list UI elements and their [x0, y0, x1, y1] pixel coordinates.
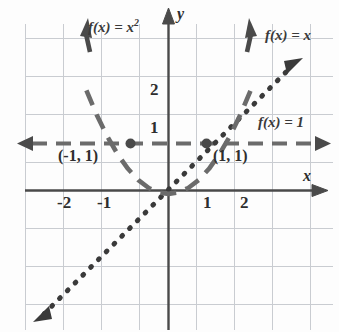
identity-upper-arrowhead — [284, 58, 303, 74]
parabola-exponent: 2 — [134, 17, 139, 28]
parabola-function-label: f(x) = x2 — [88, 18, 139, 35]
parabola-function-label-text: f(x) = x — [88, 19, 134, 35]
point-label-minus-one-one: (-1, 1) — [58, 148, 98, 164]
axis-lines — [25, 8, 328, 330]
x-tick-minus-2: -2 — [57, 194, 71, 211]
x-axis-arrowhead — [312, 185, 328, 197]
y-axis-label: y — [177, 6, 184, 22]
point-label-one-one: (1, 1) — [213, 148, 248, 164]
y-tick-2: 2 — [150, 81, 159, 98]
identity-function-label: f(x) = x — [265, 28, 311, 43]
point-dot-one-one — [202, 139, 212, 149]
x-tick-2: 2 — [240, 194, 249, 211]
y-tick-1: 1 — [150, 119, 159, 136]
point-dot-minus-one-one — [126, 139, 136, 149]
coordinate-plane — [0, 0, 339, 332]
constant-function-label: f(x) = 1 — [258, 115, 304, 130]
identity-lower-arrowhead — [33, 306, 52, 322]
constant-right-arrowhead — [315, 136, 331, 151]
x-tick-minus-1: -1 — [97, 194, 111, 211]
x-tick-1: 1 — [203, 194, 212, 211]
y-axis-arrowhead — [163, 8, 175, 24]
graph-figure: f(x) = x2 f(x) = x f(x) = 1 (-1, 1) (1, … — [0, 0, 339, 332]
x-axis-label: x — [303, 168, 311, 184]
